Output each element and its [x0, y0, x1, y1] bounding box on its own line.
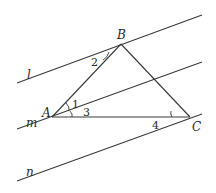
angle-3-arc [70, 111, 72, 117]
point-b-label: B [116, 28, 126, 42]
segment-bc [121, 44, 190, 117]
angle-2-label: 2 [91, 56, 98, 69]
angle-4-arc [171, 111, 172, 117]
line-l-label: l [27, 68, 31, 82]
line-n-label: n [26, 165, 34, 179]
angle-1-label: 1 [72, 98, 79, 111]
geometry-diagram: l m n B A C 1 2 3 4 [0, 0, 216, 193]
point-c-label: C [192, 120, 201, 134]
angle-4-label: 4 [152, 119, 159, 132]
line-l [17, 15, 202, 83]
line-n [17, 114, 202, 181]
angle-2-arc [103, 52, 109, 60]
line-m-label: m [26, 116, 37, 130]
point-a-label: A [41, 106, 51, 120]
angle-3-label: 3 [83, 106, 90, 119]
